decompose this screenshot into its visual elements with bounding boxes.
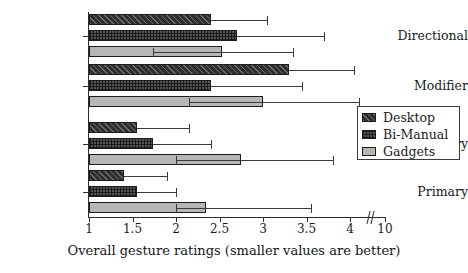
- error-bar-cap: [176, 204, 177, 213]
- bar-chart: DirectionalModifierSecondaryPrimary 11.5…: [0, 0, 468, 273]
- error-bar-line: [176, 160, 333, 161]
- x-tick-label-1: 1: [69, 223, 109, 236]
- x-tick-label-10: 10: [365, 223, 405, 236]
- category-tick: [83, 86, 89, 87]
- category-label-directional: Directional: [384, 30, 468, 42]
- error-bar-line: [189, 102, 359, 103]
- error-bar-cap: [176, 188, 177, 197]
- x-tick-label-3-5: 3.5: [287, 223, 327, 236]
- x-tick-label-4: 4: [330, 223, 370, 236]
- error-bar-cap: [176, 156, 177, 165]
- plot-area: [89, 12, 385, 217]
- x-tick-label-2-5: 2.5: [200, 223, 240, 236]
- error-bar-line: [153, 52, 294, 53]
- error-bar-line: [176, 208, 311, 209]
- bar-primary-bi-manual: [89, 186, 137, 197]
- category-tick: [83, 36, 89, 37]
- bar-secondary-desktop: [89, 122, 137, 133]
- error-bar-line: [289, 70, 354, 71]
- x-axis-title: Overall gesture ratings (smaller values …: [0, 243, 468, 258]
- category-label-modifier: Modifier: [384, 80, 468, 92]
- legend-swatch-bi-manual-icon: [362, 130, 376, 139]
- error-bar-cap: [189, 124, 190, 133]
- legend-label-desktop: Desktop: [383, 111, 435, 124]
- error-bar-line: [124, 176, 168, 177]
- error-bar-line: [211, 20, 268, 21]
- error-bar-cap: [167, 172, 168, 181]
- error-bar-cap: [211, 140, 212, 149]
- error-bar-cap: [302, 82, 303, 91]
- bar-secondary-bi-manual: [89, 138, 153, 149]
- bar-modifier-bi-manual: [89, 80, 211, 91]
- category-tick: [83, 144, 89, 145]
- error-bar-cap: [311, 204, 312, 213]
- error-bar-cap: [324, 32, 325, 41]
- legend-swatch-gadgets-icon: [362, 147, 376, 156]
- bar-primary-desktop: [89, 170, 124, 181]
- legend-swatch-desktop-icon: [362, 113, 376, 122]
- bar-directional-desktop: [89, 14, 211, 25]
- legend-label-gadgets: Gadgets: [383, 145, 435, 158]
- bar-directional-bi-manual: [89, 30, 237, 41]
- error-bar-cap: [354, 66, 355, 75]
- x-tick-label-3: 3: [243, 223, 283, 236]
- legend-item-gadgets: Gadgets: [362, 144, 435, 159]
- legend-item-bi-manual: Bi-Manual: [362, 127, 448, 142]
- category-label-primary: Primary: [384, 186, 468, 198]
- legend-item-desktop: Desktop: [362, 110, 435, 125]
- legend: Desktop Bi-Manual Gadgets: [357, 106, 460, 160]
- error-bar-cap: [333, 156, 334, 165]
- error-bar-line: [137, 192, 176, 193]
- error-bar-line: [153, 144, 211, 145]
- x-tick-label-2: 2: [156, 223, 196, 236]
- x-tick-label-1-5: 1.5: [113, 223, 153, 236]
- error-bar-line: [211, 86, 302, 87]
- error-bar-line: [237, 36, 324, 37]
- category-tick: [83, 192, 89, 193]
- error-bar-line: [137, 128, 189, 129]
- bar-modifier-desktop: [89, 64, 289, 75]
- error-bar-cap: [267, 16, 268, 25]
- error-bar-cap: [189, 98, 190, 107]
- error-bar-cap: [153, 48, 154, 57]
- error-bar-cap: [293, 48, 294, 57]
- legend-label-bi-manual: Bi-Manual: [383, 128, 448, 141]
